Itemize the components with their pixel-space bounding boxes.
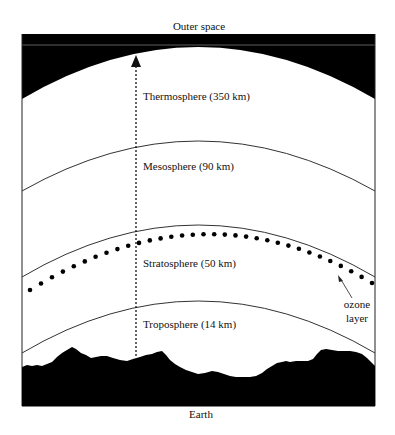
ozone-dot — [28, 288, 33, 293]
ozone-dot — [233, 233, 238, 238]
ozone-dot — [50, 275, 55, 280]
ozone-dot — [180, 233, 185, 238]
ozone-dot — [83, 259, 88, 264]
troposphere-label: Troposphere (14 km) — [143, 318, 236, 330]
ozone-dot — [307, 250, 312, 255]
mesosphere-label: Mesosphere (90 km) — [143, 160, 234, 172]
ozone-dot — [104, 251, 109, 256]
atmosphere-diagram — [0, 0, 395, 435]
stratosphere-boundary — [22, 225, 375, 277]
ozone-dot — [318, 254, 323, 259]
earth-mountains — [22, 347, 375, 406]
ozone-label-line1: ozone — [344, 298, 370, 310]
ozone-dot — [93, 254, 98, 259]
earth-label: Earth — [189, 408, 213, 420]
ozone-dot — [265, 238, 270, 243]
ozone-dot — [201, 232, 206, 237]
ozone-pointer-arrowhead — [338, 275, 343, 282]
ozone-dot — [297, 247, 302, 252]
ozone-dot — [126, 244, 131, 249]
ozone-dot — [223, 232, 228, 237]
ozone-dot — [276, 240, 281, 245]
ozone-dot — [137, 241, 142, 246]
ozone-dot — [339, 264, 344, 269]
ozone-dot — [39, 281, 44, 286]
ozone-dot — [72, 264, 77, 269]
ozone-dot — [115, 247, 120, 252]
stratosphere-label: Stratosphere (50 km) — [143, 257, 236, 269]
thermosphere-label: Thermosphere (350 km) — [143, 90, 250, 102]
ozone-dot — [212, 232, 217, 237]
ozone-dot — [328, 259, 333, 264]
ozone-dot — [148, 238, 153, 243]
outer-space-label: Outer space — [173, 20, 225, 32]
ozone-dot — [286, 243, 291, 248]
ozone-dot — [244, 234, 249, 239]
ozone-dot — [359, 275, 364, 280]
ozone-label-line2: layer — [346, 312, 368, 324]
ozone-dot — [370, 281, 375, 286]
ozone-dot — [254, 236, 259, 241]
altitude-arrow-head — [131, 55, 141, 67]
ozone-dot — [191, 232, 196, 237]
ozone-dot — [349, 269, 354, 274]
ozone-dot — [61, 269, 66, 274]
ozone-dot — [169, 234, 174, 239]
ozone-dot — [158, 236, 163, 241]
